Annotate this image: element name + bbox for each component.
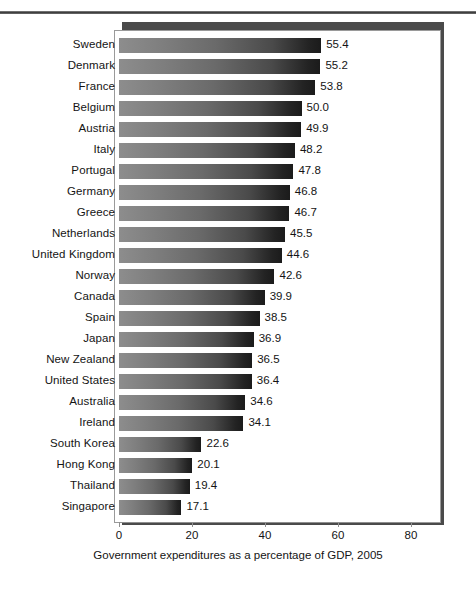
category-label: New Zealand [46,353,115,365]
bar-row: Singapore17.1 [0,498,476,519]
x-axis-title: Government expenditures as a percentage … [0,549,476,561]
bar [119,206,289,221]
bar-track [119,248,411,263]
bar [119,227,285,242]
bar-track [119,122,411,137]
category-label: Germany [67,185,115,197]
x-axis-tick-label: 40 [259,529,272,541]
bar-track [119,164,411,179]
bar-row: Portugal47.8 [0,162,476,183]
x-axis-tick [338,522,339,527]
bar-value-label: 39.9 [270,290,292,302]
x-axis-tick-label: 60 [332,529,345,541]
bar-row: Japan36.9 [0,330,476,351]
x-axis-tick-label: 80 [405,529,418,541]
bar-track [119,206,411,221]
category-label: France [79,80,115,92]
bar-track [119,143,411,158]
bar-value-label: 50.0 [307,101,329,113]
bar-track [119,185,411,200]
category-label: Norway [75,269,115,281]
category-label: Spain [85,311,115,323]
bar-row: Thailand19.4 [0,477,476,498]
bar-row: Spain38.5 [0,309,476,330]
bar-row: New Zealand36.5 [0,351,476,372]
category-label: Japan [83,332,115,344]
bar [119,122,301,137]
bar-value-label: 38.5 [265,311,287,323]
bar [119,500,181,515]
bar-value-label: 55.4 [326,38,348,50]
bar-row: Hong Kong20.1 [0,456,476,477]
category-label: Austria [79,122,116,134]
category-label: Canada [74,290,115,302]
category-label: Italy [93,143,115,155]
bar-value-label: 45.5 [290,227,312,239]
bar [119,332,254,347]
bar-value-label: 46.7 [294,206,316,218]
bar-value-label: 42.6 [279,269,301,281]
bar-row: United States36.4 [0,372,476,393]
category-label: Greece [77,206,115,218]
bar-row: United Kingdom44.6 [0,246,476,267]
bar-row: Ireland34.1 [0,414,476,435]
category-label: Denmark [68,59,115,71]
bar-row: Italy48.2 [0,141,476,162]
category-label: Thailand [70,479,115,491]
bar [119,353,252,368]
bar-row: Canada39.9 [0,288,476,309]
bar [119,311,260,326]
bar [119,269,274,284]
bar-value-label: 22.6 [206,437,228,449]
bar [119,248,282,263]
bar-value-label: 20.1 [197,458,219,470]
bar-track [119,80,411,95]
bar-value-label: 49.9 [306,122,328,134]
bar-row: South Korea22.6 [0,435,476,456]
bar [119,458,192,473]
bar-value-label: 55.2 [325,59,347,71]
category-label: Portugal [71,164,115,176]
x-axis-tick [265,522,266,527]
bar-value-label: 34.1 [248,416,270,428]
bar-value-label: 34.6 [250,395,272,407]
bar-row: France53.8 [0,78,476,99]
bar-row: Denmark55.2 [0,57,476,78]
category-label: Netherlands [52,227,115,239]
bar-value-label: 36.5 [257,353,279,365]
bar-row: Norway42.6 [0,267,476,288]
bar-row: Belgium50.0 [0,99,476,120]
bar-track [119,479,411,494]
category-label: Ireland [79,416,115,428]
x-axis-tick [192,522,193,527]
category-label: United States [45,374,115,386]
bar-rows: Sweden55.4Denmark55.2France53.8Belgium50… [0,36,476,519]
bar-value-label: 48.2 [300,143,322,155]
bar [119,38,321,53]
bar-track [119,59,411,74]
bar [119,374,252,389]
bar-value-label: 44.6 [287,248,309,260]
bar-value-label: 19.4 [195,479,217,491]
bar-track [119,458,411,473]
bar-row: Sweden55.4 [0,36,476,57]
bar-row: Austria49.9 [0,120,476,141]
bar-value-label: 36.9 [259,332,281,344]
bar [119,59,320,74]
bar-track [119,101,411,116]
category-label: Singapore [62,500,115,512]
bar [119,479,190,494]
bar [119,395,245,410]
category-label: United Kingdom [32,248,115,260]
bar-track [119,227,411,242]
x-axis-tick [411,522,412,527]
x-axis-tick-label: 20 [186,529,199,541]
category-label: South Korea [50,437,115,449]
bar [119,80,315,95]
bar [119,437,201,452]
bar-track [119,437,411,452]
bar [119,164,293,179]
bar [119,416,243,431]
bar-track [119,500,411,515]
bar-value-label: 46.8 [295,185,317,197]
